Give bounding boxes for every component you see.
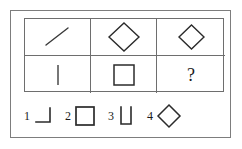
option-4[interactable]: 4 — [147, 103, 182, 129]
diamond-small-icon — [177, 23, 206, 51]
matrix-cell-r1c1[interactable]: / — [25, 19, 91, 56]
right-angle-corner-icon — [33, 106, 53, 126]
vertical-line-icon — [51, 62, 65, 88]
option-3[interactable]: 3 — [108, 105, 135, 127]
diamond-large-icon — [107, 21, 141, 53]
matrix-cell-r1c3[interactable]: ◇ — [157, 19, 225, 56]
matrix-grid: / ◇ ◇ | — [24, 18, 224, 92]
diamond-option-icon — [156, 103, 182, 129]
square-option-icon — [74, 105, 96, 127]
matrix-cell-r2c1[interactable]: | — [25, 56, 91, 93]
u-shape-icon — [117, 105, 135, 127]
question-mark-label: ? — [187, 66, 195, 84]
option-1[interactable]: 1 — [24, 106, 53, 126]
matrix-cell-r1c2[interactable]: ◇ — [91, 19, 157, 56]
option-4-number: 4 — [147, 110, 153, 122]
option-2-number: 2 — [65, 110, 71, 122]
matrix-cell-r2c3[interactable]: ? — [157, 56, 225, 93]
option-3-number: 3 — [108, 110, 114, 122]
option-1-number: 1 — [24, 110, 30, 122]
option-2[interactable]: 2 — [65, 105, 96, 127]
diagonal-line-icon — [41, 24, 75, 50]
matrix-cell-r2c2[interactable]: □ — [91, 56, 157, 93]
square-icon — [112, 63, 136, 87]
puzzle-page: / ◇ ◇ | — [0, 0, 242, 149]
answer-options: 1 2 3 4 — [24, 100, 224, 132]
